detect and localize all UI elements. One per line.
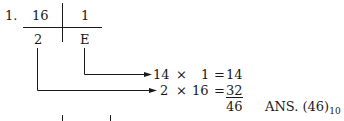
connector-e-to-14 [85,48,147,75]
answer-value: (46) [302,99,329,114]
arrowhead-icon [149,88,157,93]
table-top-right: 1 [81,9,89,22]
calc1-result: 14 [226,68,243,81]
table-top-left: 16 [32,9,49,22]
calc1-multiplier: 1 [201,68,209,81]
calc2-multiplier: 16 [192,84,209,97]
calc1-times: × [176,68,187,81]
answer: ANS. (46)10 [265,100,341,113]
calc1-equals: = [214,68,225,81]
calc2-equals: = [214,84,225,97]
connector-2-to-2 [38,48,153,91]
calc2-multiplicand: 2 [160,84,168,97]
table-bottom-left: 2 [34,33,42,46]
arrowhead-icon [144,72,152,77]
sum-total: 46 [226,100,243,113]
answer-base: 10 [329,106,340,116]
calc2-times: × [176,84,187,97]
answer-label: ANS. [265,99,298,114]
problem-number: 1. [5,9,17,22]
calc2-result: 32 [226,84,243,98]
table-bottom-right: E [80,33,90,46]
calc1-multiplicand: 14 [153,68,170,81]
